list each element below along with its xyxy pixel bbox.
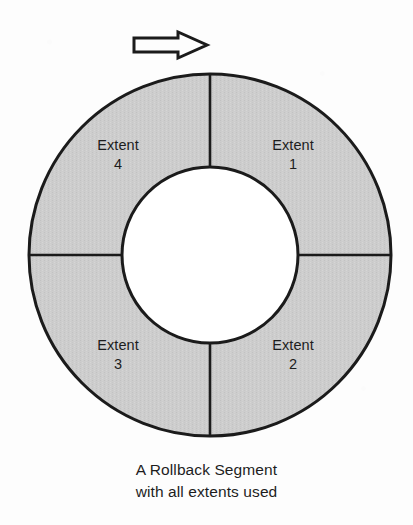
- segment-label-number: 3: [73, 355, 163, 374]
- segment-label-number: 1: [248, 155, 338, 174]
- segment-label-extent-4: Extent 4: [73, 136, 163, 174]
- caption-line-1: A Rollback Segment: [0, 459, 413, 481]
- segment-label-number: 2: [248, 355, 338, 374]
- segment-label-name: Extent: [248, 336, 338, 355]
- caption-line-2: with all extents used: [0, 481, 413, 503]
- diagram-canvas: Extent 1 Extent 2 Extent 3 Extent 4 A Ro…: [0, 0, 413, 525]
- segment-label-extent-1: Extent 1: [248, 136, 338, 174]
- segment-label-extent-3: Extent 3: [73, 336, 163, 374]
- segment-label-extent-2: Extent 2: [248, 336, 338, 374]
- figure-caption: A Rollback Segment with all extents used: [0, 459, 413, 503]
- segment-label-name: Extent: [248, 136, 338, 155]
- donut-ring: [0, 0, 413, 525]
- segment-label-name: Extent: [73, 336, 163, 355]
- segment-label-number: 4: [73, 155, 163, 174]
- segment-label-name: Extent: [73, 136, 163, 155]
- rollback-segment-graphic: [0, 0, 413, 525]
